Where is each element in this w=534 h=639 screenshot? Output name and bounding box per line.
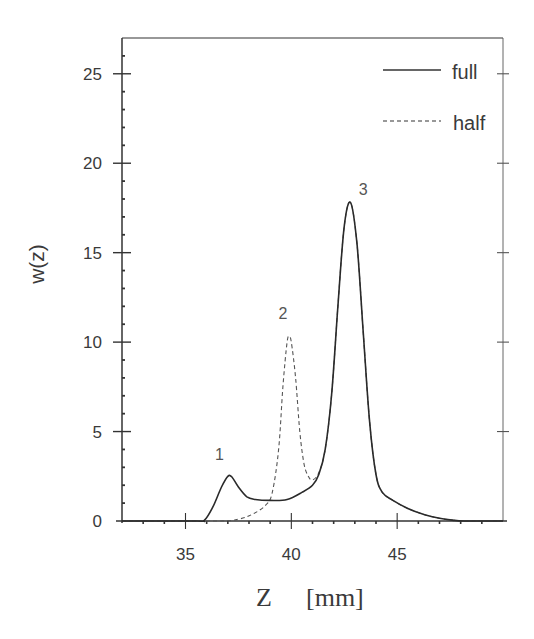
plot-frame [116,38,507,523]
x-tick-label: 45 [388,545,407,564]
x-axis-unit: [mm] [306,583,364,612]
y-tick-label: 20 [83,154,102,173]
y-tick-label: 5 [93,423,102,442]
peak-label-1: 1 [215,446,224,463]
y-axis-ticks: 0510152025 [83,56,509,531]
series-full [122,202,503,521]
data-curves [122,202,503,521]
x-tick-label: 40 [282,545,301,564]
y-tick-label: 10 [83,333,102,352]
x-axis-title: Z [mm] [256,583,364,612]
y-tick-label: 0 [93,512,102,531]
x-axis-variable: Z [256,583,272,612]
legend-label-half: half [453,112,486,134]
series-half [122,202,503,521]
legend-label-full: full [452,61,478,83]
peak-label-2: 2 [278,305,287,322]
y-tick-label: 25 [83,65,102,84]
legend: full half [383,61,486,134]
chart-canvas: 354045 0510152025 123 full half w(z) Z [… [0,0,534,639]
x-tick-label: 35 [176,545,195,564]
peak-label-3: 3 [359,181,368,198]
y-tick-label: 15 [83,244,102,263]
y-axis-title: w(z) [25,244,48,285]
